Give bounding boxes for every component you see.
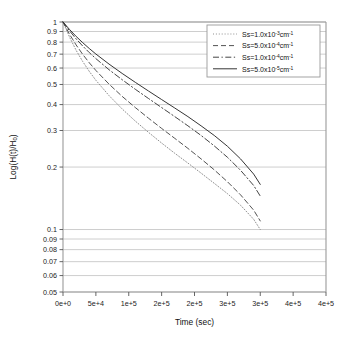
x-tick-label-4: 2e+5 [186,299,202,308]
y-tick-label-5: 0.5 [47,80,57,89]
x-tick-label-3: 2e+5 [154,299,170,308]
y-tick-label-13: 0.06 [43,271,57,280]
y-tick-label-14: 0.05 [43,288,57,297]
y-tick-label-8: 0.2 [47,163,57,172]
y-tick-label-7: 0.3 [47,126,57,135]
x-tick-label-2: 1e+5 [121,299,137,308]
y-tick-label-1: 0.9 [47,27,57,36]
y-tick-label-2: 0.8 [47,38,57,47]
legend-label-3: Ss=5.0x10-5cm-1 [242,65,294,73]
y-tick-label-6: 0.4 [47,100,57,109]
semilog-line-chart: 10.90.80.70.60.50.40.30.20.10.090.080.07… [0,0,352,349]
x-tick-label-8: 4e+5 [318,299,334,308]
x-tick-label-0: 0e+0 [55,299,71,308]
y-tick-label-11: 0.08 [43,245,57,254]
y-tick-label-4: 0.6 [47,64,57,73]
x-axis-title: Time (sec) [175,317,214,327]
x-tick-label-5: 3e+5 [219,299,235,308]
y-tick-label-10: 0.09 [43,235,57,244]
x-tick-label-6: 3e+5 [252,299,268,308]
y-tick-label-9: 0.1 [47,225,57,234]
chart-figure: 10.90.80.70.60.50.40.30.20.10.090.080.07… [0,0,352,349]
legend-label-1: Ss=5.0x10-4cm-1 [242,42,294,50]
y-tick-label-12: 0.07 [43,257,57,266]
legend-label-2: Ss=1.0x10-4cm-1 [242,53,294,61]
legend-label-0: Ss=1.0x10-3cm-1 [242,30,294,38]
x-tick-label-7: 4e+5 [285,299,301,308]
x-tick-label-1: 5e+4 [88,299,104,308]
y-tick-label-0: 1 [53,18,57,27]
y-tick-label-3: 0.7 [47,50,57,59]
y-axis-title: Log(H(t)/H0) [8,134,18,179]
